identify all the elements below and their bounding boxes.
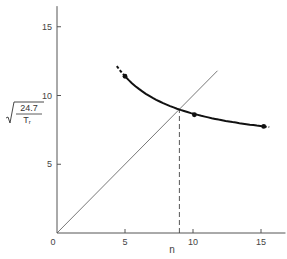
axes (57, 6, 285, 233)
ylabel-numerator: 24.7 (20, 103, 38, 113)
x-tick-label: 15 (256, 237, 266, 247)
y-tick-label: 10 (42, 91, 52, 101)
x-axis-label: n (169, 244, 175, 255)
ylabel-denominator: Tr (23, 115, 31, 125)
chart: 05101551015 24.7Tr n (0, 0, 287, 259)
plot-area (57, 66, 269, 233)
curve-solid (125, 76, 264, 126)
data-point (192, 112, 197, 117)
diagonal-line (57, 71, 217, 233)
x-tick-label: 10 (188, 237, 198, 247)
data-point (123, 74, 128, 79)
y-tick-label: 15 (42, 22, 52, 32)
x-tick-label: 5 (122, 237, 127, 247)
x-tick-label: 0 (50, 237, 55, 247)
y-tick-label: 5 (47, 159, 52, 169)
y-axis-label: 24.7Tr (6, 102, 44, 125)
data-point (261, 124, 266, 129)
